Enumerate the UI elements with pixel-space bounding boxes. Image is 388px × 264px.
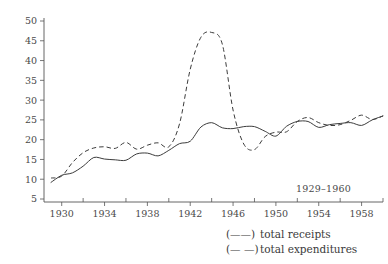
x-axis-tick-label: 1938 (135, 208, 159, 219)
x-axis-tick-label: 1930 (50, 208, 74, 219)
y-axis: 5101520253035404550 (25, 15, 44, 204)
legend-key-solid: (——) (226, 227, 260, 242)
y-axis-tick-label: 10 (25, 174, 37, 185)
chart-range-annotation: 1929–1960 (296, 183, 351, 194)
y-axis-tick-label: 50 (25, 15, 37, 26)
legend-item-total-expenditures: (— —)total expenditures (226, 242, 357, 257)
x-axis-tick-label: 1950 (264, 208, 288, 219)
y-axis-tick-label: 15 (25, 154, 37, 165)
y-axis-tick-label: 5 (31, 193, 37, 204)
x-axis-tick-label: 1958 (349, 208, 373, 219)
chart-legend: (——)total receipts (— —)total expenditur… (226, 227, 357, 257)
x-axis: 19301934193819421946195019541958 (44, 198, 383, 219)
legend-label-total-expenditures: total expenditures (260, 242, 357, 257)
y-axis-tick-label: 20 (25, 134, 37, 145)
y-axis-tick-label: 45 (25, 35, 37, 46)
legend-key-dashed: (— —) (226, 242, 260, 257)
series-line-total-expenditures (51, 32, 383, 178)
y-axis-tick-label: 30 (25, 95, 37, 106)
x-axis-tick-label: 1934 (92, 208, 116, 219)
x-axis-tick-label: 1942 (178, 208, 202, 219)
line-chart-plot: 5101520253035404550 19301934193819421946… (0, 0, 388, 264)
y-axis-tick-label: 40 (25, 55, 37, 66)
chart-container: 5101520253035404550 19301934193819421946… (0, 0, 388, 264)
legend-item-total-receipts: (——)total receipts (226, 227, 357, 242)
y-axis-tick-label: 25 (25, 114, 37, 125)
x-axis-tick-label: 1946 (221, 208, 245, 219)
y-axis-tick-label: 35 (25, 75, 37, 86)
legend-label-total-receipts: total receipts (260, 227, 331, 242)
x-axis-tick-label: 1954 (307, 208, 331, 219)
